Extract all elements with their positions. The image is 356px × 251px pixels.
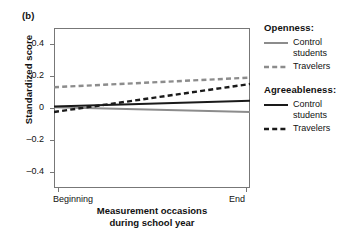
x-axis-title-line2: during school year [34, 217, 270, 229]
y-tick-label: –0.4 [18, 166, 44, 176]
x-tick-mark [246, 188, 247, 192]
x-tick-label: Beginning [53, 194, 93, 204]
legend-group-heading: Agreeableness: [264, 84, 356, 95]
figure-panel-b: (b) Standardized score 0.40.20–0.2–0.4 B… [0, 0, 356, 251]
legend-item-label-line2: students [293, 110, 327, 121]
legend-item[interactable]: Travelers [264, 61, 356, 73]
legend-item-label: Controlstudents [293, 37, 327, 58]
series-line [54, 101, 250, 107]
x-axis-title: Measurement occasions during school year [34, 205, 270, 229]
legend-item-label-line2: students [293, 48, 327, 59]
dashed-line-icon [264, 123, 288, 135]
legend-item-label-line1: Control [293, 99, 327, 110]
y-tick-label: –0.2 [18, 134, 44, 144]
solid-line-icon [264, 99, 288, 111]
series-line [54, 107, 250, 112]
dashed-line-icon [264, 61, 288, 73]
x-axis-title-line1: Measurement occasions [34, 205, 270, 217]
legend-item-label-line1: Travelers [293, 61, 330, 72]
legend: Openness:ControlstudentsTravelersAgreeab… [264, 22, 356, 138]
legend-item[interactable]: Travelers [264, 123, 356, 135]
legend-item-label: Travelers [293, 61, 330, 72]
legend-item[interactable]: Controlstudents [264, 99, 356, 120]
x-tick-label: End [229, 194, 245, 204]
series-line [54, 78, 250, 88]
solid-line-icon [264, 37, 288, 49]
legend-item[interactable]: Controlstudents [264, 37, 356, 58]
x-tick-mark [58, 188, 59, 192]
y-tick-label: 0.4 [18, 38, 44, 48]
legend-group-heading: Openness: [264, 22, 356, 33]
y-tick-label: 0.2 [18, 70, 44, 80]
legend-item-label: Controlstudents [293, 99, 327, 120]
y-tick-label: 0 [18, 102, 44, 112]
legend-item-label-line1: Travelers [293, 123, 330, 134]
plot-lines [54, 28, 250, 188]
legend-item-label: Travelers [293, 123, 330, 134]
legend-item-label-line1: Control [293, 37, 327, 48]
